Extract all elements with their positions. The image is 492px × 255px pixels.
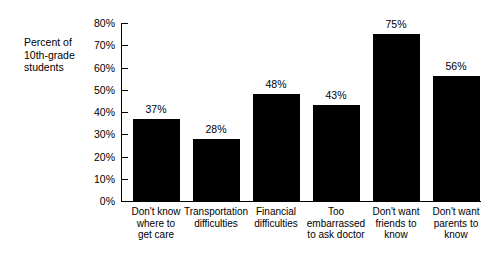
y-axis-tick-mark (122, 157, 128, 158)
bar (373, 34, 420, 201)
bar-value-label: 48% (265, 78, 286, 90)
y-axis-tick-mark (122, 112, 128, 113)
bar-group: 75%Don't want friends to know (373, 23, 420, 201)
bar-value-label: 37% (145, 103, 166, 115)
bar-group: 28%Transportation difficulties (193, 23, 240, 201)
y-axis-title: Percent of 10th-grade students (24, 36, 102, 74)
y-axis-tick-mark (122, 45, 128, 46)
y-axis-tick-mark (122, 201, 128, 202)
bar-group: 37%Don't know where to get care (133, 23, 180, 201)
bar-value-label: 28% (205, 123, 226, 135)
bar-group: 56%Don't want parents to know (433, 23, 480, 201)
y-axis-tick-label: 60% (94, 62, 115, 74)
bar-value-label: 75% (385, 18, 406, 30)
x-axis-category-label: Don't want parents to know (414, 206, 492, 241)
bar (433, 76, 480, 201)
y-axis-tick-mark (122, 23, 128, 24)
y-axis-tick-label: 10% (94, 173, 115, 185)
y-axis-tick-mark (122, 179, 128, 180)
y-axis-tick-label: 30% (94, 128, 115, 140)
y-axis-tick-label: 0% (100, 195, 115, 207)
bar-group: 43%Too embarrassed to ask doctor (313, 23, 360, 201)
y-axis-tick-mark (122, 68, 128, 69)
y-axis-tick-label: 40% (94, 106, 115, 118)
bar (313, 105, 360, 201)
bar-group: 48%Financial difficulties (253, 23, 300, 201)
bar-chart-figure: Percent of 10th-grade students 0%10%20%3… (0, 0, 492, 255)
y-axis-tick-label: 20% (94, 151, 115, 163)
x-axis-line (121, 201, 481, 202)
y-axis-tick-mark (122, 90, 128, 91)
bar (193, 139, 240, 201)
y-axis-tick-label: 70% (94, 39, 115, 51)
bar-value-label: 56% (445, 60, 466, 72)
bar-value-label: 43% (325, 89, 346, 101)
y-axis-tick-mark (122, 134, 128, 135)
bar (133, 119, 180, 201)
y-axis-tick-label: 80% (94, 17, 115, 29)
bar (253, 94, 300, 201)
y-axis-tick-label: 50% (94, 84, 115, 96)
plot-area: 0%10%20%30%40%50%60%70%80% 37%Don't know… (121, 23, 481, 201)
